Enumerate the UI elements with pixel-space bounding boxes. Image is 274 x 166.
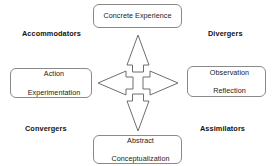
node-abstract-conceptualization-label: AbstractConceptualization	[94, 136, 181, 164]
corner-label-divergers: Divergers	[208, 29, 243, 38]
node-concrete-experience-label: Concrete Experience	[94, 11, 181, 20]
node-abstract-line2: Conceptualization	[97, 154, 184, 163]
node-abstract-conceptualization: AbstractConceptualization	[93, 135, 182, 164]
node-observation-reflection: ObservationReflection	[187, 66, 266, 97]
four-way-arrow-icon	[96, 33, 180, 133]
node-observation-line2: Reflection	[191, 86, 268, 95]
node-action-experimentation-label: ActionExperimentation	[11, 69, 91, 97]
arrow-right-icon	[143, 71, 178, 95]
node-action-experimentation: ActionExperimentation	[10, 68, 92, 98]
corner-label-convergers: Convergers	[25, 124, 67, 133]
node-observation-line1: Observation	[191, 68, 268, 77]
arrow-down-icon	[127, 94, 149, 131]
node-concrete-experience: Concrete Experience	[93, 4, 182, 28]
node-abstract-line1: Abstract	[97, 136, 184, 145]
corner-label-accommodators: Accommodators	[22, 29, 81, 38]
node-action-line1: Action	[14, 69, 94, 78]
arrow-left-icon	[98, 71, 133, 95]
corner-label-assimilators: Assimilators	[200, 124, 245, 133]
node-observation-reflection-label: ObservationReflection	[188, 68, 265, 96]
node-action-line2: Experimentation	[14, 88, 94, 97]
arrow-up-icon	[127, 35, 149, 72]
kolb-learning-cycle-diagram: Concrete Experience ActionExperimentatio…	[0, 0, 274, 166]
